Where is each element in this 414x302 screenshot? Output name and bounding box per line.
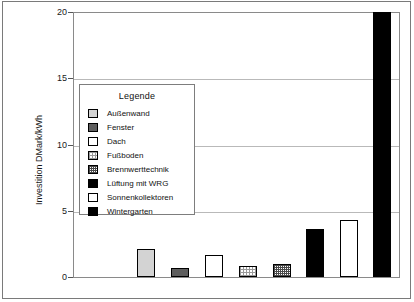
y-tick-label-0: 0 <box>45 272 67 282</box>
bar-dach <box>205 255 223 277</box>
legend-item-label: Lüftung mit WRG <box>107 179 168 188</box>
legend-item-lueftung-mit-wrg: Lüftung mit WRG <box>80 176 194 190</box>
legend-swatch-icon <box>88 179 98 188</box>
bar-aussenwand <box>137 249 155 277</box>
legend-swatch-icon <box>88 165 98 174</box>
bar-fenster <box>171 268 189 277</box>
legend-swatch-icon <box>88 151 98 160</box>
y-axis-title: Investition DMark/kWh <box>34 115 44 205</box>
legend-item-label: Fußboden <box>107 151 143 160</box>
legend-item-sonnenkollektoren: Sonnenkollektoren <box>80 190 194 204</box>
legend-item-dach: Dach <box>80 134 194 148</box>
gridline-15 <box>74 79 399 80</box>
legend-item-brennwerttechnik: Brennwerttechnik <box>80 162 194 176</box>
y-tick-label-5: 5 <box>45 206 67 216</box>
legend-item-label: Sonnenkollektoren <box>107 193 173 202</box>
y-tick-label-15: 15 <box>45 73 67 83</box>
legend-title: Legende <box>80 91 194 101</box>
bar-fussboden <box>239 266 257 277</box>
legend-item-label: Wintergarten <box>107 207 153 216</box>
y-tick-label-20: 20 <box>45 7 67 17</box>
legend-swatch-icon <box>88 137 98 146</box>
legend-item-label: Dach <box>107 137 126 146</box>
legend-item-fenster: Fenster <box>80 120 194 134</box>
legend-item-wintergarten: Wintergarten <box>80 204 194 218</box>
y-tick-label-10: 10 <box>45 140 67 150</box>
legend-swatch-icon <box>88 109 98 118</box>
bar-wintergarten <box>373 12 391 277</box>
legend-item-aussenwand: Außenwand <box>80 106 194 120</box>
bar-lueftung-mit-wrg <box>306 229 324 277</box>
legend-swatch-icon <box>88 207 98 216</box>
legend-item-label: Brennwerttechnik <box>107 165 169 174</box>
legend-swatch-icon <box>88 193 98 202</box>
legend-swatch-icon <box>88 123 98 132</box>
legend-item-fussboden: Fußboden <box>80 148 194 162</box>
legend: Legende Außenwand Fenster Dach Fußboden … <box>79 84 195 215</box>
legend-item-label: Fenster <box>107 123 134 132</box>
chart-figure: 20 15 10 5 0 Investition DMark/kWh Legen… <box>0 0 414 302</box>
legend-item-label: Außenwand <box>107 109 150 118</box>
bar-brennwerttechnik <box>273 264 291 277</box>
bar-sonnenkollektoren <box>340 220 358 277</box>
